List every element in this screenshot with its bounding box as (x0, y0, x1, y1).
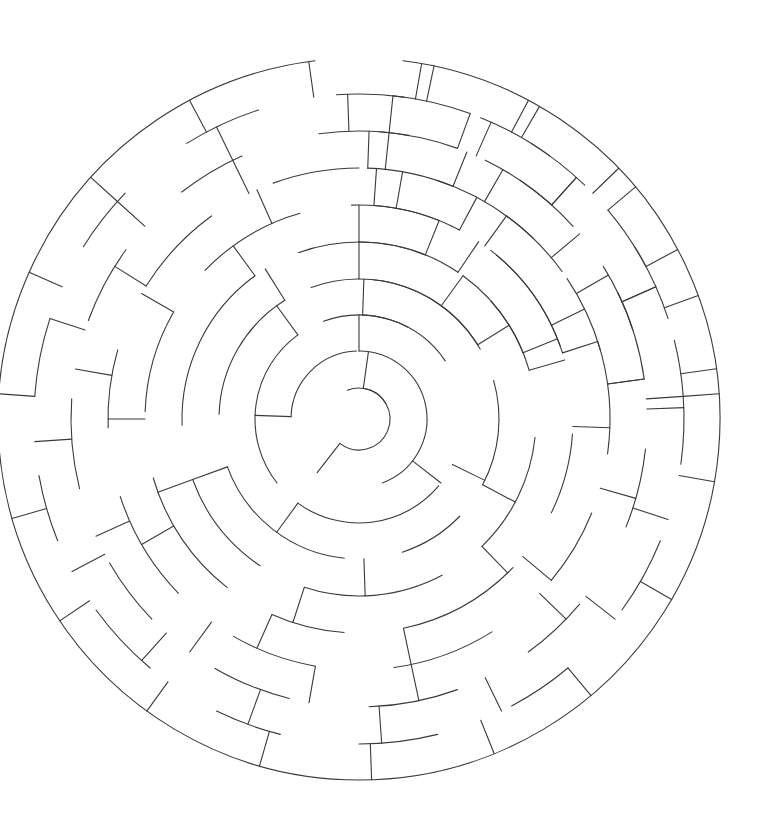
maze-background (0, 0, 759, 827)
circular-maze-figure (0, 0, 759, 827)
